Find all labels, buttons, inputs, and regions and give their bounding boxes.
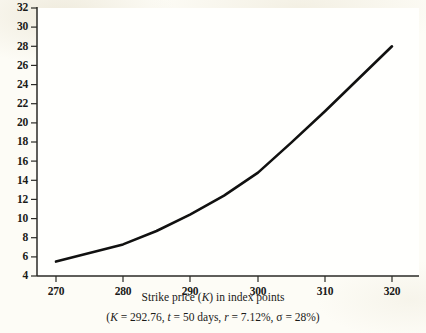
y-tick-label: 32 (0, 2, 28, 13)
y-tick-label: 12 (0, 194, 28, 205)
data-series-option-value (56, 46, 392, 261)
x-axis-label-before: Strike price ( (142, 291, 202, 303)
y-tick-marks (31, 8, 37, 276)
figure-caption: (K = 292.76, t = 50 days, r = 7.12%, σ =… (0, 311, 426, 323)
x-tick-marks (56, 276, 392, 282)
y-tick-label: 26 (0, 60, 28, 71)
y-tick-label: 14 (0, 175, 28, 186)
y-tick-label: 8 (0, 232, 28, 243)
caption-k-value: = 292.76, (118, 311, 168, 323)
caption-r-value: = 7.12%, (229, 311, 277, 323)
figure-container: 4 6 8 10 12 14 16 18 20 22 24 26 28 30 3… (0, 0, 426, 333)
y-tick-label: 20 (0, 117, 28, 128)
y-tick-label: 24 (0, 79, 28, 90)
y-tick-label: 18 (0, 136, 28, 147)
caption-t-value: = 50 days, (171, 311, 224, 323)
y-tick-label: 28 (0, 41, 28, 52)
x-axis-label-after: ) in index points (209, 291, 284, 303)
y-tick-label: 30 (0, 21, 28, 32)
caption-sigma-value: = 28%) (283, 311, 320, 323)
y-tick-label: 6 (0, 251, 28, 262)
x-axis-label: Strike price (K) in index points (0, 291, 426, 303)
chart-svg (0, 0, 426, 300)
y-tick-label: 22 (0, 98, 28, 109)
y-tick-label: 16 (0, 156, 28, 167)
y-tick-label: 10 (0, 213, 28, 224)
caption-k-symbol: K (110, 311, 118, 323)
y-tick-label: 4 (0, 270, 28, 281)
